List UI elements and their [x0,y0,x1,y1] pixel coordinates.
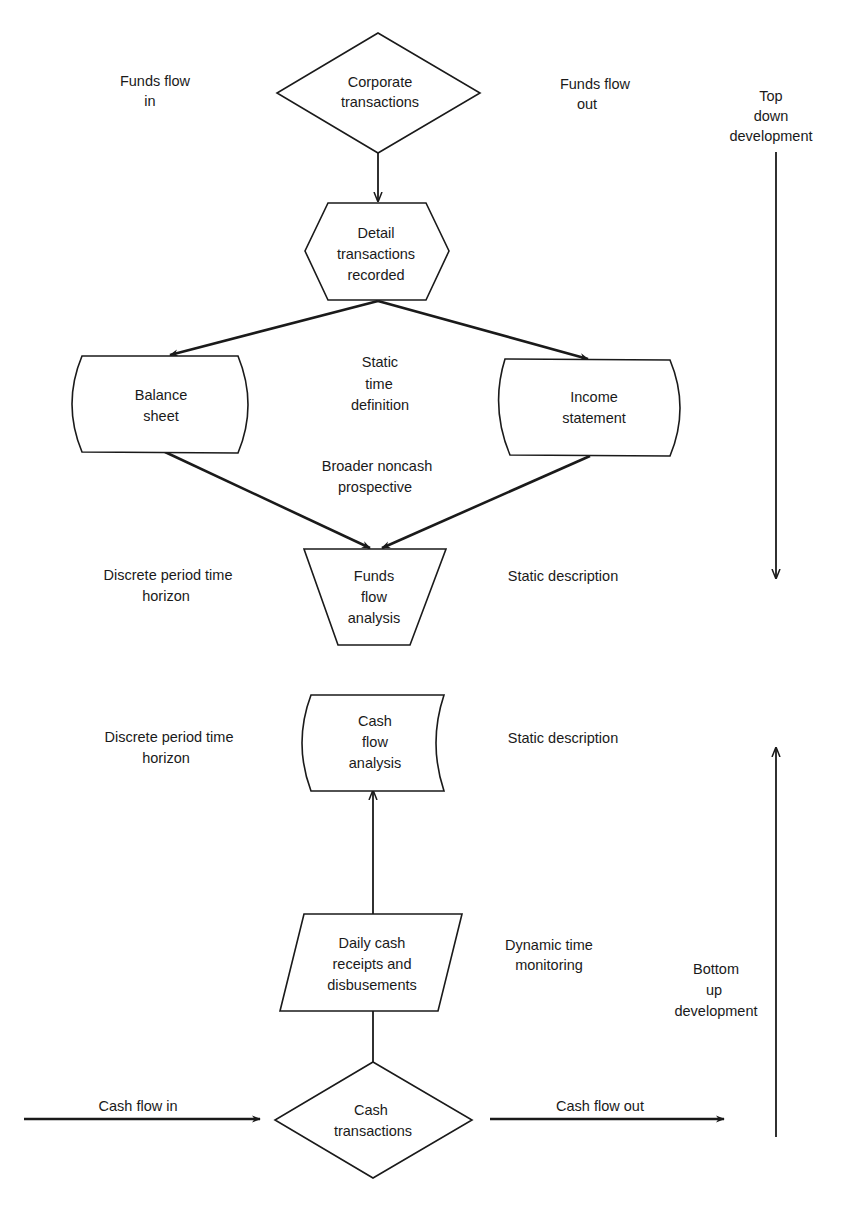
label-static-description-2: Static description [508,730,618,746]
label-discrete-period-1: Discrete period time horizon [104,567,233,604]
node-income-statement: Income statement [499,359,680,456]
svg-text:Static description: Static description [508,568,618,584]
label-static-time-definition: Static time definition [351,354,409,413]
node-cash-transactions: Cash transactions [275,1062,472,1178]
svg-text:sheet: sheet [143,408,178,424]
svg-text:Cash flow out: Cash flow out [556,1098,644,1114]
edge-detail-to-balance [170,301,378,355]
svg-text:development: development [674,1003,757,1019]
label-static-description-1: Static description [508,568,618,584]
svg-text:horizon: horizon [142,588,190,604]
svg-text:Detail: Detail [357,225,394,241]
node-balance-sheet: Balance sheet [72,356,248,453]
svg-text:transactions: transactions [341,94,419,110]
node-funds-flow-analysis: Funds flow analysis [304,549,446,645]
svg-text:analysis: analysis [348,610,400,626]
svg-text:Balance: Balance [135,387,187,403]
svg-text:development: development [729,128,812,144]
svg-text:Cash flow in: Cash flow in [99,1098,178,1114]
svg-text:transactions: transactions [334,1123,412,1139]
svg-text:flow: flow [361,589,387,605]
svg-text:Static description: Static description [508,730,618,746]
svg-text:Funds flow: Funds flow [560,76,631,92]
svg-text:monitoring: monitoring [515,957,583,973]
svg-text:transactions: transactions [337,246,415,262]
svg-text:out: out [577,96,597,112]
svg-text:time: time [365,376,392,392]
svg-text:up: up [706,982,722,998]
svg-text:definition: definition [351,397,409,413]
svg-text:Dynamic time: Dynamic time [505,937,593,953]
label-cash-flow-out: Cash flow out [556,1098,644,1114]
svg-text:Funds flow: Funds flow [120,73,191,89]
svg-text:Bottom: Bottom [693,961,739,977]
label-dynamic-time-monitoring: Dynamic time monitoring [505,937,593,973]
label-funds-flow-out: Funds flow out [560,76,631,112]
label-discrete-period-2: Discrete period time horizon [105,729,234,766]
svg-text:Income: Income [570,389,618,405]
label-cash-flow-in: Cash flow in [99,1098,178,1114]
svg-text:Funds: Funds [354,568,394,584]
label-bottom-up-development: Bottom up development [674,961,757,1019]
node-detail-transactions-recorded: Detail transactions recorded [305,203,449,300]
svg-text:Broader noncash: Broader noncash [322,458,432,474]
node-daily-cash-receipts: Daily cash receipts and disbusements [280,914,462,1011]
svg-text:Discrete period time: Discrete period time [104,567,233,583]
label-top-down-development: Top down development [729,88,812,144]
svg-text:Top: Top [759,88,782,104]
svg-text:down: down [754,108,789,124]
svg-text:Daily cash: Daily cash [339,935,406,951]
svg-text:in: in [144,93,155,109]
node-corporate-transactions: Corporate transactions [277,33,480,153]
svg-text:Cash: Cash [354,1102,388,1118]
svg-text:statement: statement [562,410,626,426]
label-broader-noncash: Broader noncash prospective [322,458,432,495]
flow-diagram: Corporate transactions Detail transactio… [0,0,847,1214]
svg-text:horizon: horizon [142,750,190,766]
svg-text:Cash: Cash [358,713,392,729]
label-funds-flow-in: Funds flow in [120,73,191,109]
svg-text:disbusements: disbusements [327,977,416,993]
svg-text:flow: flow [362,734,388,750]
edge-detail-to-income [378,301,588,359]
svg-text:analysis: analysis [349,755,401,771]
svg-text:Discrete period time: Discrete period time [105,729,234,745]
svg-text:recorded: recorded [347,267,404,283]
svg-text:receipts and: receipts and [333,956,412,972]
svg-text:Static: Static [362,354,398,370]
svg-text:Corporate: Corporate [348,74,412,90]
svg-text:prospective: prospective [338,479,412,495]
node-cash-flow-analysis: Cash flow analysis [302,695,444,791]
